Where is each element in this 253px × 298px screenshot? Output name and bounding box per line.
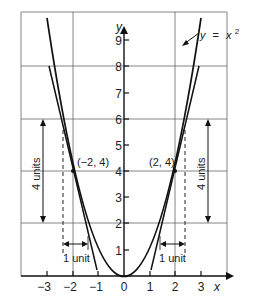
x-axis-arrow-icon: [226, 272, 234, 280]
arrow-down-icon: [205, 216, 211, 223]
point-label-right: (2, 4): [149, 156, 175, 168]
arrow-left-icon: [160, 241, 166, 247]
x-tick-neg3: −3: [37, 280, 51, 294]
y-tick-4: 4: [115, 165, 122, 179]
y-tick-1: 1: [115, 244, 122, 258]
x-axis-label: x: [213, 280, 221, 294]
y-tick-labels: 1 2 3 4 5 6 7 8 9: [115, 34, 122, 258]
y-tick-3: 3: [115, 191, 122, 205]
y-tick-2: 2: [115, 217, 122, 231]
x-tick-neg1: −1: [89, 280, 103, 294]
right-4-units-label: 4 units: [195, 157, 207, 190]
y-tick-8: 8: [115, 60, 122, 74]
x-tick-0: 0: [121, 280, 128, 294]
x-tick-labels: −3 −2 −1 0 1 2 3: [37, 280, 205, 294]
y-axis-label: y: [115, 20, 123, 34]
axes: [21, 30, 228, 276]
y-ticks: [124, 40, 129, 250]
arrow-up-icon: [40, 119, 46, 126]
arrow-right-icon: [179, 241, 185, 247]
y-tick-5: 5: [115, 139, 122, 153]
left-4-units-label: 4 units: [30, 157, 42, 190]
arrow-up-icon: [205, 119, 211, 126]
x-tick-neg2: −2: [63, 280, 77, 294]
y-tick-7: 7: [115, 87, 122, 101]
curve-label: y = x 2: [199, 27, 240, 41]
arrow-left-icon: [63, 241, 69, 247]
point-label-left: (−2, 4): [77, 156, 109, 168]
parabola-diagram: 1 2 3 4 5 6 7 8 9 −3 −2 −1 0 1 2 3 x y (…: [0, 0, 253, 298]
left-1-unit-label: 1 unit: [63, 252, 90, 264]
arrow-right-icon: [82, 241, 88, 247]
x-tick-2: 2: [172, 280, 179, 294]
x-tick-3: 3: [198, 280, 205, 294]
point-right: [173, 169, 177, 173]
point-left: [71, 169, 75, 173]
x-tick-1: 1: [147, 280, 154, 294]
arrow-down-icon: [40, 216, 46, 223]
y-tick-6: 6: [115, 113, 122, 127]
y-tick-9: 9: [115, 34, 122, 48]
right-1-unit-label: 1 unit: [159, 252, 186, 264]
